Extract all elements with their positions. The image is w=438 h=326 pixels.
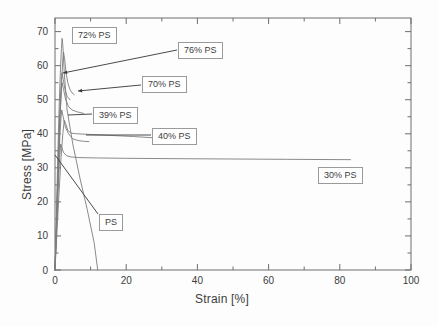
x-axis-title: Strain [%] bbox=[195, 292, 249, 306]
svg-text:40: 40 bbox=[37, 128, 49, 139]
svg-text:40: 40 bbox=[192, 275, 204, 286]
axis-ticks bbox=[55, 18, 411, 270]
plot-frame bbox=[55, 18, 411, 270]
svg-text:100: 100 bbox=[403, 275, 420, 286]
annotation-label-ps: PS bbox=[99, 214, 123, 231]
chart-figure: 020406080100010203040506070 Strain [%] S… bbox=[0, 0, 438, 326]
curve-30-ps bbox=[55, 144, 350, 270]
svg-text:50: 50 bbox=[37, 94, 49, 105]
data-curves bbox=[55, 38, 350, 270]
annotation-label-39-ps: 39% PS bbox=[93, 107, 138, 124]
annotation-label-76-ps: 76% PS bbox=[178, 42, 223, 59]
svg-text:0: 0 bbox=[42, 265, 48, 276]
leader-39 bbox=[68, 114, 92, 115]
curve-40-ps bbox=[55, 120, 155, 270]
svg-text:20: 20 bbox=[37, 196, 49, 207]
svg-text:60: 60 bbox=[263, 275, 275, 286]
leader-76 bbox=[63, 50, 177, 73]
svg-text:80: 80 bbox=[334, 275, 346, 286]
svg-text:30: 30 bbox=[37, 162, 49, 173]
leader-76-arrowhead bbox=[63, 70, 67, 74]
annotation-label-72-ps: 72% PS bbox=[72, 27, 117, 44]
svg-text:60: 60 bbox=[37, 60, 49, 71]
annotation-label-30-ps: 30% PS bbox=[318, 167, 363, 184]
svg-text:20: 20 bbox=[121, 275, 133, 286]
y-axis-title: Stress [MPa] bbox=[20, 129, 34, 200]
leader-70 bbox=[78, 85, 141, 91]
svg-text:0: 0 bbox=[52, 275, 58, 286]
svg-text:70: 70 bbox=[37, 26, 49, 37]
annotation-label-70-ps: 70% PS bbox=[142, 76, 187, 93]
svg-text:10: 10 bbox=[37, 230, 49, 241]
annotation-label-40-ps: 40% PS bbox=[152, 128, 197, 145]
